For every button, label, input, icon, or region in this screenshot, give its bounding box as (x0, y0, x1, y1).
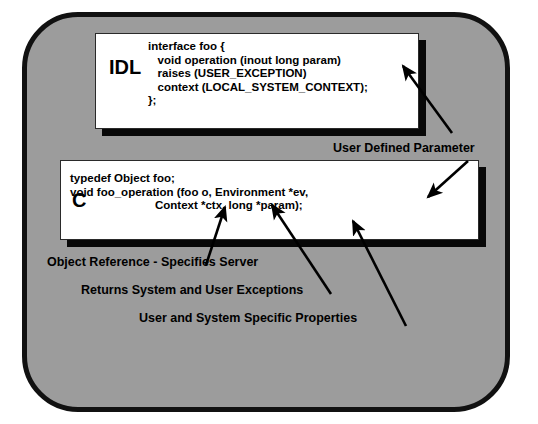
idl-source-code: interface foo { void operation (inout lo… (148, 40, 368, 108)
annotation-properties: User and System Specific Properties (139, 311, 357, 325)
diagram-canvas: IDL interface foo { void operation (inou… (0, 0, 538, 424)
annotation-user-defined-parameter: User Defined Parameter (333, 141, 475, 155)
idl-language-label: IDL (109, 56, 141, 79)
c-source-code-line2: Context *ctx, long *param); (155, 199, 303, 213)
annotation-object-reference: Object Reference - Specifies Server (47, 255, 258, 269)
annotation-exceptions: Returns System and User Exceptions (81, 283, 303, 297)
c-source-code-line1: typedef Object foo; void foo_operation (… (70, 172, 308, 199)
